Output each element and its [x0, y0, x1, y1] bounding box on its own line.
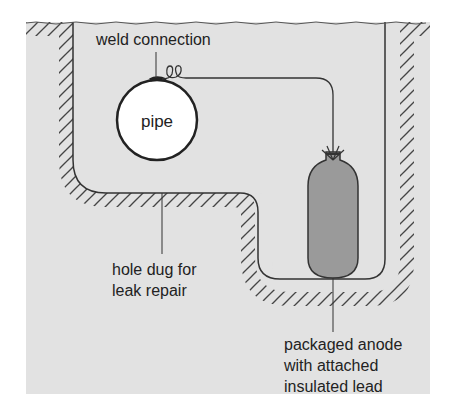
packaged-anode: [308, 152, 358, 278]
hole-label-line1: hole dug for: [112, 261, 197, 278]
diagram-canvas: pipe weld connection hole dug for leak r…: [0, 0, 456, 415]
hole-label-line2: leak repair: [112, 282, 187, 299]
weld-label: weld connection: [95, 31, 211, 48]
pipe-label: pipe: [141, 112, 173, 131]
anode-label-line3: insulated lead: [284, 378, 383, 395]
anode-label-line2: with attached: [283, 357, 378, 374]
anode-label-line1: packaged anode: [284, 336, 402, 353]
cathodic-protection-diagram: pipe weld connection hole dug for leak r…: [0, 0, 456, 415]
